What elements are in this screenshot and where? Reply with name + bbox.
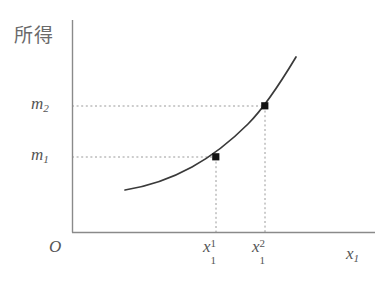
- chart-figure: 所得 m2 m1 O x11 x21 x1: [0, 0, 388, 284]
- x-axis-title-base: x: [346, 244, 354, 263]
- x-tick-1-sub: 1: [211, 255, 217, 266]
- y-tick-label-m2: m2: [31, 95, 49, 112]
- x-tick-1-base: x: [203, 237, 211, 256]
- x-tick-2-base: x: [252, 237, 260, 256]
- data-point-marker-1: [212, 153, 219, 160]
- y-tick-m2-base: m: [31, 94, 43, 113]
- x-tick-2-sup: 2: [260, 238, 266, 249]
- x-tick-1-sup: 1: [211, 238, 217, 249]
- income-curve: [125, 57, 296, 190]
- y-tick-m1-sub: 1: [43, 153, 49, 165]
- y-axis-title: 所得: [14, 26, 54, 45]
- data-point-marker-2: [261, 102, 268, 109]
- y-tick-label-m1: m1: [31, 146, 49, 163]
- x-tick-label-2: x21: [252, 238, 260, 255]
- x-tick-2-sub: 1: [260, 255, 266, 266]
- y-tick-m1-base: m: [31, 145, 43, 164]
- y-tick-m2-sub: 2: [43, 102, 49, 114]
- x-axis-title-sub: 1: [354, 252, 360, 264]
- x-axis-title: x1: [346, 245, 359, 262]
- x-tick-label-1: x11: [203, 238, 211, 255]
- origin-label: O: [49, 238, 61, 255]
